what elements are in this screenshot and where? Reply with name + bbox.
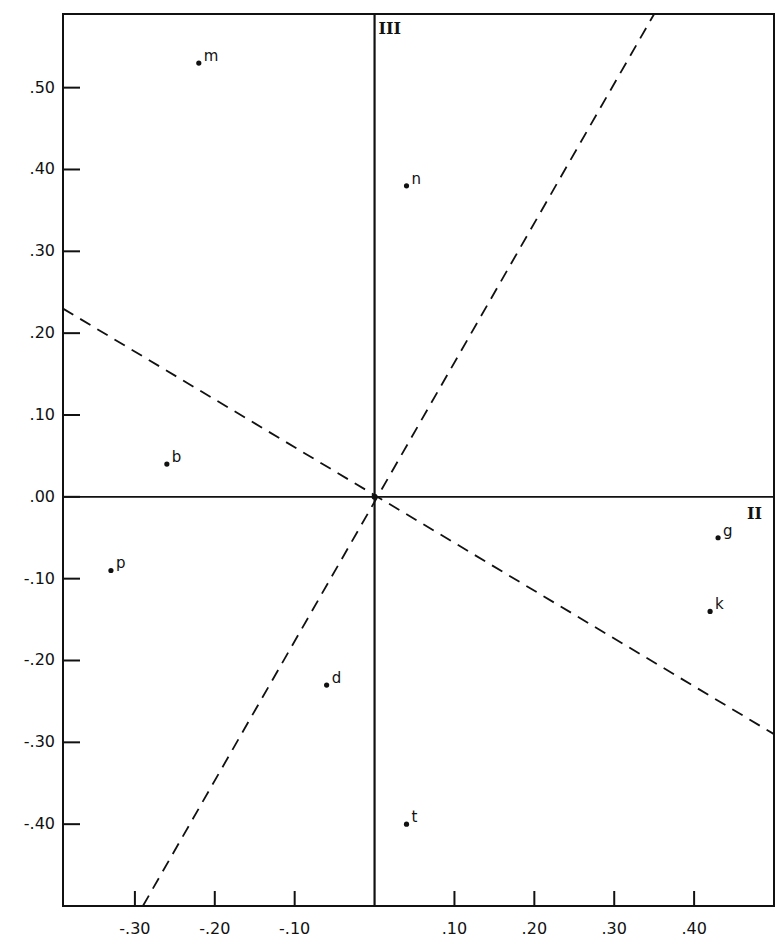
main-axes: [63, 14, 774, 906]
factor-plot: .50.40.30.20.10.00-.10-.20-.30-.40 -.30-…: [0, 0, 784, 946]
axis-labels: IIIII: [379, 19, 762, 523]
data-point: g: [715, 522, 732, 541]
x-tick-label: .20: [522, 919, 547, 938]
point-label: d: [332, 669, 342, 687]
x-tick-label: .30: [601, 919, 626, 938]
data-point: p: [108, 554, 125, 573]
point-label: n: [412, 170, 422, 188]
y-tick-label: .40: [30, 159, 55, 178]
data-point: t: [404, 808, 418, 827]
point-label: m: [204, 47, 219, 65]
origin-dot: [372, 494, 378, 500]
y-axis-ticks: .50.40.30.20.10.00-.10-.20-.30-.40: [24, 78, 80, 834]
y-tick-label: -.20: [24, 650, 55, 669]
point-marker: [196, 61, 201, 66]
y-tick-label: -.30: [24, 732, 55, 751]
point-marker: [164, 461, 169, 466]
data-point: n: [404, 170, 421, 189]
x-axis-ticks: -.30-.20-.10.10.20.30.40: [119, 891, 707, 938]
y-tick-label: -.40: [24, 814, 55, 833]
point-label: b: [172, 448, 182, 466]
dashed-axis-steep: [143, 14, 654, 906]
rotated-axes-dashed: [63, 14, 774, 906]
point-marker: [715, 535, 720, 540]
x-tick-label: .40: [681, 919, 706, 938]
y-tick-label: .20: [30, 323, 55, 342]
point-label: g: [723, 522, 733, 540]
data-point: m: [196, 47, 218, 66]
point-label: k: [715, 595, 724, 613]
point-label: p: [116, 554, 126, 572]
y-tick-label: .00: [30, 487, 55, 506]
x-tick-label: -.10: [279, 919, 310, 938]
point-marker: [404, 183, 409, 188]
x-tick-label: .10: [442, 919, 467, 938]
plot-frame: [63, 14, 774, 906]
y-tick-label: .50: [30, 78, 55, 97]
plot-border: [63, 14, 774, 906]
y-tick-label: -.10: [24, 569, 55, 588]
point-marker: [108, 568, 113, 573]
data-point: k: [707, 595, 724, 614]
axis-label-III: III: [379, 19, 401, 38]
dashed-axis-shallow: [63, 309, 774, 735]
data-point: d: [324, 669, 341, 688]
y-tick-label: .30: [30, 241, 55, 260]
point-label: t: [412, 808, 418, 826]
point-marker: [707, 609, 712, 614]
y-tick-label: .10: [30, 405, 55, 424]
x-tick-label: -.20: [199, 919, 230, 938]
point-marker: [404, 822, 409, 827]
data-points: mnbpdtgk: [108, 47, 732, 827]
point-marker: [324, 682, 329, 687]
axis-label-II: II: [747, 504, 762, 523]
data-point: b: [164, 448, 181, 467]
x-tick-label: -.30: [119, 919, 150, 938]
